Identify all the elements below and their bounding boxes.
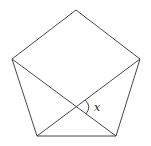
pentagon-svg: x [0,0,151,146]
pentagon-diagram: x [0,0,151,146]
angle-label-x: x [94,101,101,114]
diagonal-left-to-bottom-right [12,59,116,136]
angle-arc [85,100,89,114]
diagonal-right-to-bottom-left [37,59,140,136]
